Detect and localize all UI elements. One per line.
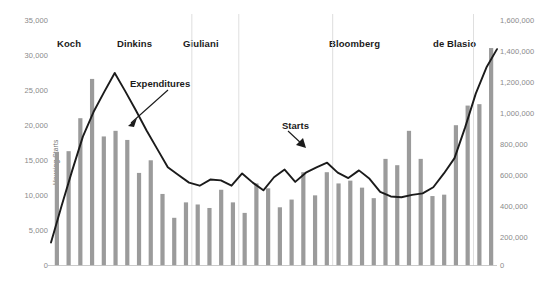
bar xyxy=(360,188,364,266)
bar xyxy=(348,181,352,266)
bar xyxy=(477,104,481,265)
bar xyxy=(219,190,223,266)
bar xyxy=(231,202,235,265)
bar xyxy=(113,131,117,266)
bar xyxy=(196,204,200,265)
bar xyxy=(325,172,329,265)
bar xyxy=(67,151,71,265)
bar xyxy=(266,188,270,265)
bar xyxy=(466,106,470,266)
expenditures-line xyxy=(51,49,497,242)
bar xyxy=(301,172,305,265)
starts-bars xyxy=(55,48,493,265)
bar xyxy=(336,183,340,265)
bar xyxy=(90,79,94,266)
bar xyxy=(207,208,211,266)
bar xyxy=(489,48,493,265)
bar xyxy=(149,160,153,265)
chart-plot-area xyxy=(0,0,550,286)
bar xyxy=(454,125,458,265)
bar xyxy=(442,195,446,266)
bar xyxy=(172,218,176,266)
bar xyxy=(419,159,423,266)
bar xyxy=(137,173,141,266)
bar xyxy=(372,198,376,265)
bar xyxy=(243,213,247,266)
bar xyxy=(125,140,129,266)
bar xyxy=(430,196,434,265)
bar xyxy=(184,202,188,265)
starts-arrow xyxy=(288,131,306,148)
bar xyxy=(407,131,411,266)
bar xyxy=(290,200,294,266)
chart-container: 35,000 30,000 25,000 20,000 15,000 10,00… xyxy=(0,0,550,286)
bar xyxy=(278,207,282,265)
bar xyxy=(313,195,317,265)
bar xyxy=(383,159,387,266)
bar xyxy=(395,165,399,265)
bar xyxy=(55,152,59,266)
bar xyxy=(102,136,106,265)
bar xyxy=(254,183,258,265)
bar xyxy=(160,194,164,266)
